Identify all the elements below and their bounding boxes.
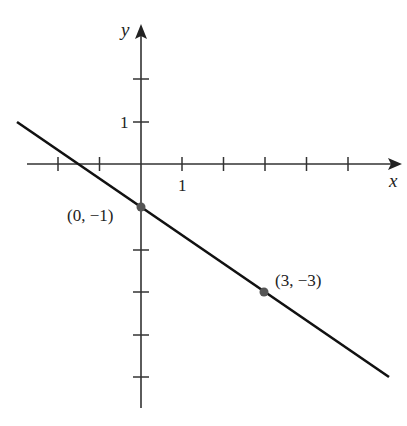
y-tick-label-1: 1 bbox=[120, 113, 129, 132]
point-3-neg3 bbox=[260, 288, 269, 297]
point-0-neg1 bbox=[137, 203, 146, 212]
x-tick-label-1: 1 bbox=[178, 176, 187, 195]
x-axis-label: x bbox=[388, 170, 398, 191]
y-axis-label: y bbox=[119, 19, 130, 40]
point-label-0-neg1: (0, −1) bbox=[67, 206, 113, 225]
graph-line bbox=[17, 122, 389, 377]
y-axis: 1 y bbox=[119, 19, 149, 408]
point-label-3-neg3: (3, −3) bbox=[275, 271, 321, 290]
coordinate-plane: 1 x 1 y (0, −1) (3, −3) bbox=[0, 0, 407, 426]
x-axis: 1 x bbox=[27, 157, 402, 195]
